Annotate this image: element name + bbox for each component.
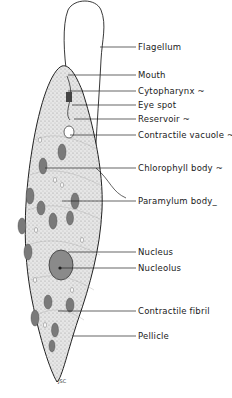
label-pellicle: Pellicle [138,331,169,341]
label-contractile-fibril: Contractile fibril [138,306,210,316]
label-nucleolus: Nucleolus [138,263,181,273]
artist-signature: JSC [58,378,66,384]
label-nucleus: Nucleus [138,247,173,257]
nucleus-icon [49,250,73,280]
label-eye-spot: Eye spot [138,100,176,110]
euglena-diagram: Flagellum Mouth Cytopharynx ~ Eye spot R… [0,0,232,398]
label-cytopharynx: Cytopharynx ~ [138,86,205,96]
label-flagellum: Flagellum [138,42,181,52]
label-mouth: Mouth [138,70,166,80]
label-chlorophyll-body: Chlorophyll body ~ [138,163,223,173]
cell-body-icon [25,66,102,382]
contractile-vacuole-icon [64,126,74,138]
eye-spot-icon [66,92,72,102]
label-contractile-vacuole: Contractile vacuole ~ [138,130,232,140]
label-paramylum-body: Paramylum body_ [138,196,217,206]
label-reservoir: Reservoir ~ [138,114,190,124]
